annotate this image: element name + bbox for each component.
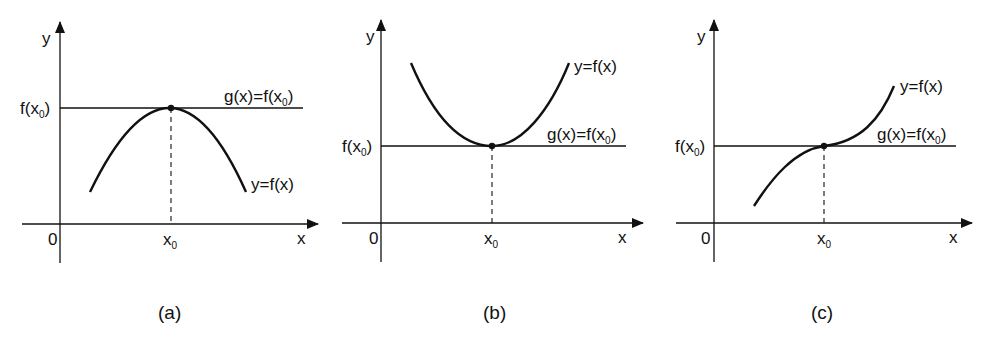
y-axis-label: y — [366, 27, 375, 46]
tangent-label: g(x)=f(x0) — [224, 87, 293, 108]
x-axis-label: x — [618, 228, 627, 247]
x0-label: x0 — [817, 229, 832, 250]
tangent-label: g(x)=f(x0) — [877, 125, 946, 146]
origin-label: 0 — [369, 229, 378, 248]
fx0-label: f(x0) — [675, 137, 705, 158]
figure-canvas: y x 0 x0 f(x0) g(x)=f(x0) y=f(x) (a) y x… — [0, 0, 988, 355]
curve-maximum — [90, 108, 246, 192]
x0-label: x0 — [484, 229, 499, 250]
y-axis-label: y — [697, 27, 706, 46]
curve-minimum — [411, 63, 569, 146]
extremum-point — [168, 105, 174, 111]
panel-a: y x 0 x0 f(x0) g(x)=f(x0) y=f(x) (a) — [20, 22, 318, 323]
tangent-label: g(x)=f(x0) — [547, 125, 616, 146]
fx0-label: f(x0) — [20, 99, 50, 120]
curve-label: y=f(x) — [574, 57, 617, 76]
panel-c: y x 0 x0 f(x0) g(x)=f(x0) y=f(x) (c) — [675, 20, 972, 323]
panel-caption: (a) — [158, 302, 181, 323]
fx0-label: f(x0) — [342, 137, 372, 158]
x0-label: x0 — [163, 230, 178, 251]
inflection-point — [821, 143, 827, 149]
curve-label: y=f(x) — [251, 175, 294, 194]
panel-b: y x 0 x0 f(x0) g(x)=f(x0) y=f(x) (b) — [342, 20, 643, 323]
origin-label: 0 — [48, 230, 57, 249]
x-axis-label: x — [949, 228, 958, 247]
y-axis-label: y — [42, 29, 51, 48]
panel-caption: (b) — [483, 302, 506, 323]
origin-label: 0 — [701, 229, 710, 248]
curve-label: y=f(x) — [900, 77, 943, 96]
extremum-point — [489, 143, 495, 149]
panel-caption: (c) — [811, 302, 833, 323]
x-axis-label: x — [297, 229, 306, 248]
